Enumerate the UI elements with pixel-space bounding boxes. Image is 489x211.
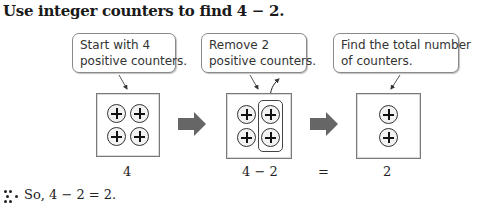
- pointer-arrow-start: [119, 75, 127, 89]
- right-arrow-icon: [310, 112, 340, 136]
- positive-counter-icon: [237, 105, 256, 124]
- counter-mat-total: [356, 93, 421, 159]
- pointer-arrow-total: [391, 75, 400, 89]
- label-total: 2: [383, 164, 391, 179]
- label-remove: 4 − 2: [242, 164, 278, 179]
- therefore-dots-icon: [3, 189, 19, 203]
- conclusion-text: So, 4 − 2 = 2.: [24, 187, 116, 202]
- conclusion: So, 4 − 2 = 2.: [3, 187, 116, 203]
- positive-counter-icon: [261, 105, 280, 124]
- pointer-arrow-remove: [250, 75, 258, 89]
- positive-counter-icon: [237, 128, 256, 147]
- positive-counter-icon: [130, 104, 149, 123]
- equals-sign: =: [318, 164, 329, 179]
- counter-mat-start: [96, 93, 160, 157]
- positive-counter-icon: [130, 127, 149, 146]
- positive-counter-icon: [261, 128, 280, 147]
- label-start: 4: [123, 164, 131, 179]
- right-arrow-icon: [178, 112, 208, 136]
- counter-mat-remove: [226, 93, 292, 159]
- positive-counter-icon: [379, 105, 398, 124]
- positive-counter-icon: [107, 104, 126, 123]
- positive-counter-icon: [107, 127, 126, 146]
- positive-counter-icon: [379, 128, 398, 147]
